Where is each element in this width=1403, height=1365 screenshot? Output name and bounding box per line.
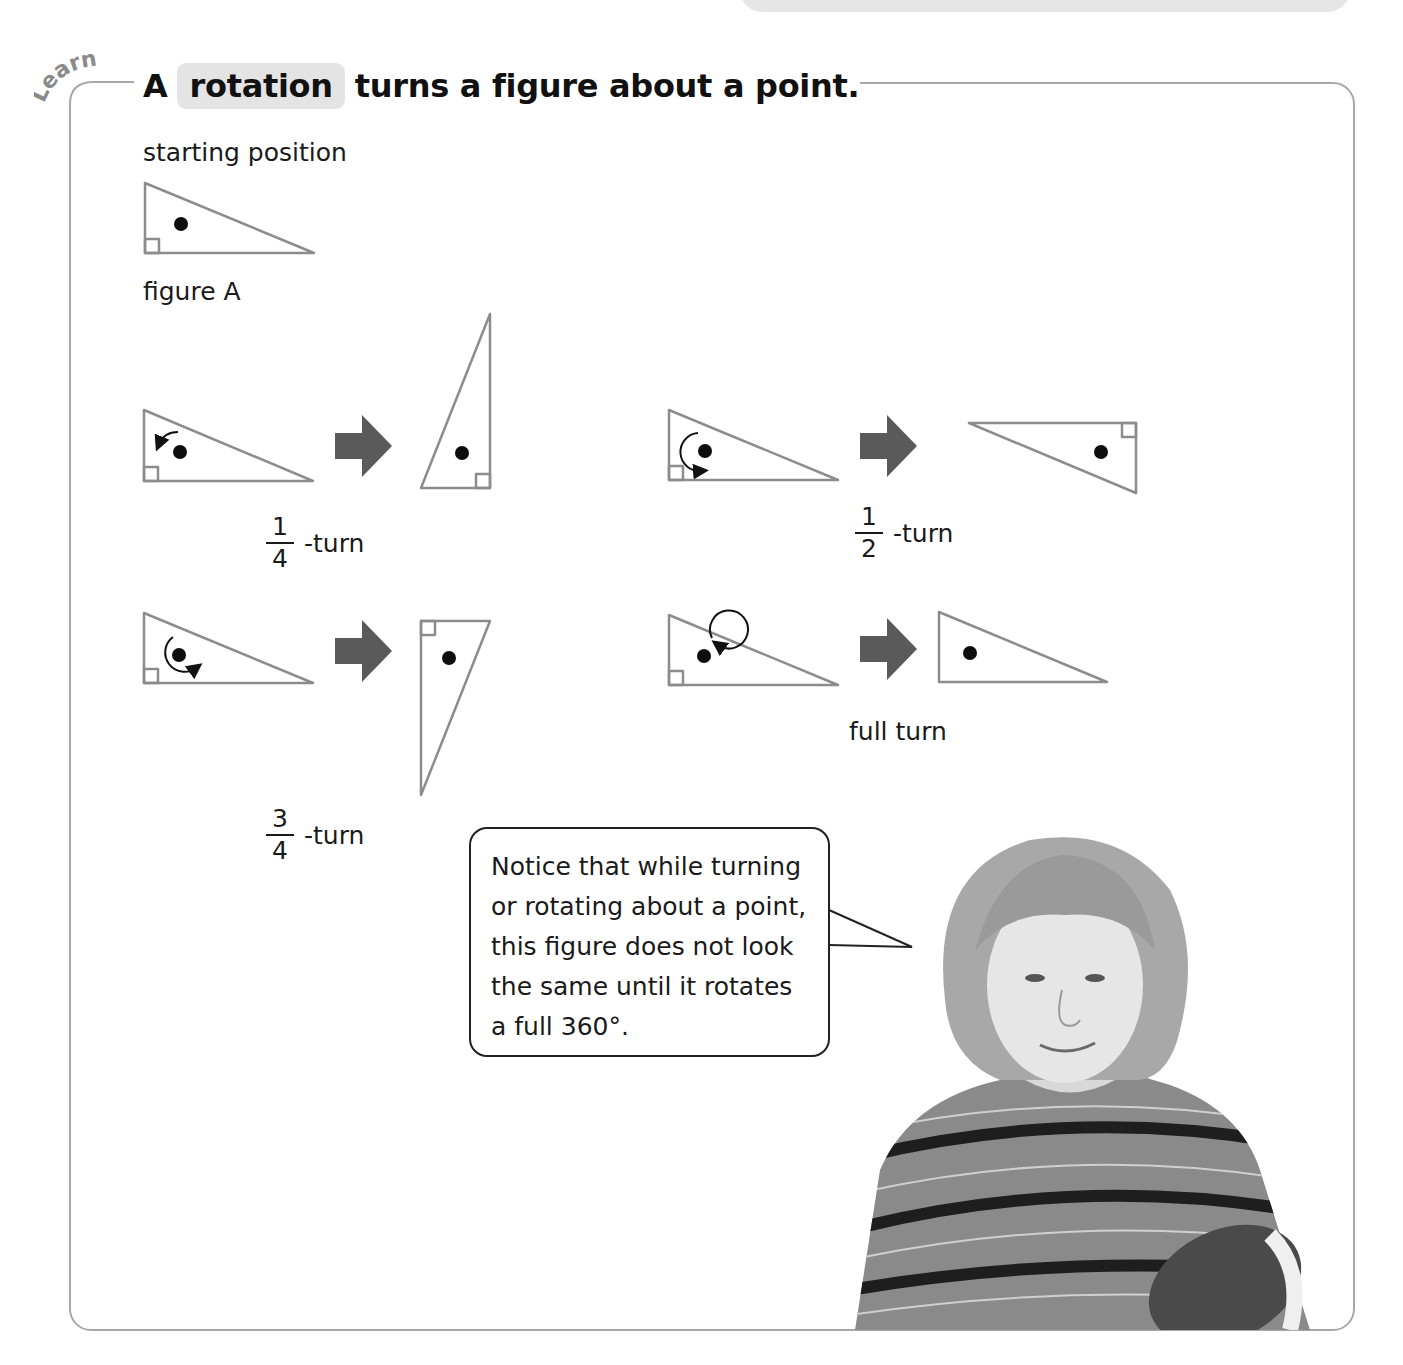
dot-icon — [172, 648, 186, 662]
dot-icon — [698, 444, 712, 458]
triangle-quarter-result — [421, 314, 490, 488]
dot-icon — [455, 446, 469, 460]
speech-bubble: Notice that while turning or rotating ab… — [469, 827, 830, 1057]
triangle-quarter-original — [144, 410, 313, 481]
dot-icon — [174, 217, 188, 231]
dot-icon — [1094, 445, 1108, 459]
triangle-full-original — [669, 615, 838, 685]
half-turn-label: 12 -turn — [855, 504, 953, 562]
bubble-line: this figure does not look — [491, 927, 818, 967]
quarter-turn-label: 14 -turn — [266, 514, 364, 572]
center-dots — [172, 217, 1108, 665]
triangle-threequarter-result — [421, 621, 490, 795]
bubble-line: or rotating about a point, — [491, 887, 818, 927]
full-turn-label: full turn — [849, 717, 947, 746]
dot-icon — [173, 445, 187, 459]
right-arrow-icon-threequarter — [335, 620, 392, 682]
student-photo — [850, 830, 1320, 1330]
figure-a-label: figure A — [143, 277, 241, 306]
dot-icon — [697, 649, 711, 663]
triangle-full-result — [939, 612, 1107, 682]
dot-icon — [963, 646, 977, 660]
bubble-line: a full 360°. — [491, 1007, 818, 1047]
right-arrow-icon-full — [860, 618, 917, 680]
triangle-half-result — [969, 423, 1136, 493]
right-arrow-icon-quarter — [335, 415, 392, 477]
triangle-starting — [145, 183, 314, 253]
dot-icon — [442, 651, 456, 665]
bubble-line: Notice that while turning — [491, 847, 818, 887]
three-quarter-turn-label: 34 -turn — [266, 806, 364, 864]
triangle-threequarter-original — [144, 613, 313, 683]
right-arrow-icon-half — [860, 415, 917, 477]
bubble-line: the same until it rotates — [491, 967, 818, 1007]
